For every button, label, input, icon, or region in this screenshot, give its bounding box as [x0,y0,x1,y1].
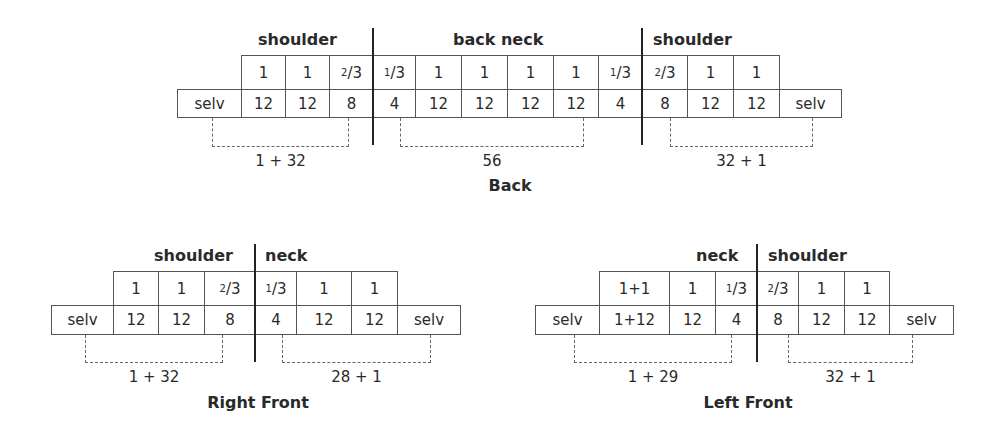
stitch-count-cell: 4 [715,305,758,335]
stitch-count-cell: 12 [507,89,554,118]
row-count-cell: 1 [507,55,554,90]
row-count-cell: 1 [415,55,462,90]
row-count-cell: 2/3 [642,55,688,90]
center-divider-line [641,28,643,145]
stitch-count-cell: 12 [733,89,780,118]
stitch-count-cell: 12 [798,305,845,335]
stitch-count-cell: 8 [204,305,256,335]
section-header: shoulder [154,246,233,265]
dashed-bracket [212,118,349,147]
stitch-count-cell: 4 [598,89,643,118]
section-header: neck [696,246,738,265]
panel-title: Right Front [207,393,309,412]
bracket-total-label: 56 [482,152,501,170]
row-count-cell: 1 [113,271,159,306]
center-divider-line [254,244,256,362]
bracket-total-label: 32 + 1 [825,368,876,386]
stitch-count-cell: 12 [553,89,599,118]
row-count-cell: 1 [351,271,398,306]
stitch-count-cell: selv [889,305,954,335]
row-count-cell: 2/3 [204,271,256,306]
row-count-cell: 2/3 [329,55,374,90]
bracket-total-label: 1 + 32 [255,152,306,170]
panel-title: Back [488,176,531,195]
stitch-count-cell: 8 [757,305,799,335]
panel-title: Left Front [703,393,792,412]
stitch-count-cell: 12 [415,89,462,118]
stitch-diagram: shoulderback neckshoulder112/31/311111/3… [0,0,1002,440]
bracket-total-label: 1 + 32 [129,368,180,386]
bracket-total-label: 32 + 1 [716,152,767,170]
stitch-count-cell: 12 [687,89,734,118]
dashed-bracket [282,335,431,363]
stitch-count-cell: 12 [461,89,508,118]
stitch-count-cell: selv [779,89,842,118]
stitch-count-cell: selv [397,305,461,335]
stitch-count-cell: 12 [351,305,398,335]
row-count-cell: 1+1 [599,271,670,306]
dashed-bracket [574,335,732,363]
stitch-count-cell: 12 [113,305,159,335]
section-header: shoulder [768,246,847,265]
stitch-count-cell: selv [177,89,242,118]
row-count-cell: 1 [296,271,352,306]
stitch-count-cell: 8 [642,89,688,118]
dashed-bracket [85,335,223,363]
row-count-cell: 1 [687,55,734,90]
row-count-cell: 1 [669,271,716,306]
row-count-cell: 1/3 [255,271,297,306]
stitch-count-cell: 12 [669,305,716,335]
row-count-cell: 1 [461,55,508,90]
row-count-cell: 2/3 [757,271,799,306]
row-count-cell: 1 [158,271,205,306]
row-count-cell: 1 [285,55,330,90]
row-count-cell: 1 [241,55,286,90]
center-divider-line [756,244,758,362]
row-count-cell: 1 [553,55,599,90]
dashed-bracket [670,118,813,147]
stitch-count-cell: 12 [158,305,205,335]
row-count-cell: 1/3 [373,55,416,90]
stitch-count-cell: 4 [373,89,416,118]
row-count-cell: 1 [798,271,845,306]
stitch-count-cell: 12 [241,89,286,118]
bracket-total-label: 28 + 1 [331,368,382,386]
stitch-count-cell: 1+12 [599,305,670,335]
stitch-count-cell: 8 [329,89,374,118]
stitch-count-cell: 4 [255,305,297,335]
row-count-cell: 1/3 [715,271,758,306]
row-count-cell: 1 [844,271,890,306]
stitch-count-cell: 12 [296,305,352,335]
row-count-cell: 1/3 [598,55,643,90]
stitch-count-cell: selv [535,305,600,335]
stitch-count-cell: 12 [844,305,890,335]
section-header: neck [265,246,307,265]
stitch-count-cell: selv [51,305,114,335]
center-divider-line [372,28,374,145]
section-header: shoulder [258,30,337,49]
dashed-bracket [400,118,584,147]
row-count-cell: 1 [733,55,780,90]
dashed-bracket [788,335,913,363]
stitch-count-cell: 12 [285,89,330,118]
bracket-total-label: 1 + 29 [628,368,679,386]
section-header: back neck [453,30,543,49]
section-header: shoulder [653,30,732,49]
